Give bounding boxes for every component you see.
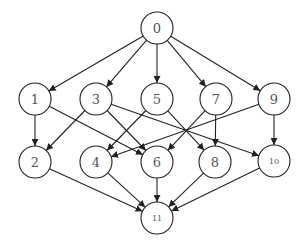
node-5: 5 (141, 83, 173, 115)
node-label: 2 (31, 155, 39, 170)
nodes-layer: 01357924681011 (19, 12, 290, 234)
edge-3-to-2 (46, 111, 85, 151)
node-label: 0 (153, 21, 161, 36)
node-6: 6 (141, 146, 173, 178)
node-11: 11 (141, 202, 173, 234)
node-1: 1 (19, 83, 51, 115)
edge-4-to-11 (108, 173, 145, 207)
node-label: 11 (152, 214, 162, 223)
edge-0-to-3 (106, 40, 146, 87)
edge-0-to-7 (167, 40, 206, 86)
node-label: 6 (153, 155, 161, 170)
edges-layer (35, 36, 274, 211)
node-label: 3 (92, 92, 100, 107)
node-4: 4 (80, 146, 112, 178)
node-label: 10 (269, 157, 279, 166)
node-label: 1 (31, 92, 39, 107)
node-label: 5 (153, 92, 161, 107)
node-label: 4 (92, 155, 100, 170)
node-3: 3 (80, 83, 112, 115)
edge-8-to-11 (169, 173, 204, 207)
node-10: 10 (258, 145, 290, 177)
directed-graph: 01357924681011 (0, 0, 307, 252)
node-8: 8 (199, 146, 231, 178)
node-label: 8 (211, 155, 219, 170)
node-7: 7 (200, 83, 232, 115)
node-0: 0 (141, 12, 173, 44)
node-2: 2 (19, 146, 51, 178)
node-label: 9 (270, 92, 278, 107)
node-9: 9 (258, 83, 290, 115)
node-label: 7 (212, 92, 220, 107)
